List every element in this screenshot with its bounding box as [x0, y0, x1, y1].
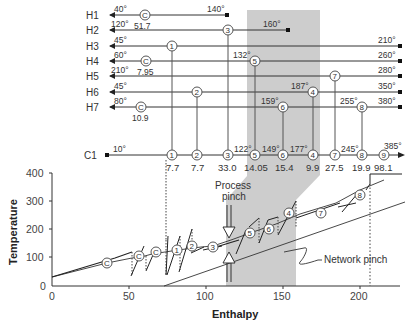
h5-target-temp: 210°	[111, 65, 129, 75]
network-pinch-label: Network pinch	[324, 254, 387, 265]
h7-supply-temp: 380°	[378, 96, 396, 106]
h6-supply-temp: 350°	[378, 81, 396, 91]
ex4-hot-temp: 187°	[291, 81, 309, 91]
svg-text:7: 7	[319, 209, 324, 218]
svg-text:6: 6	[267, 225, 272, 234]
chart-exchanger-5: 5	[245, 228, 255, 238]
h4-supply-temp: 260°	[378, 50, 396, 60]
svg-text:4: 4	[311, 88, 316, 97]
stream-label-h1: H1	[86, 10, 99, 21]
svg-text:2: 2	[195, 151, 200, 160]
exchanger-2-hot: 2	[192, 87, 202, 97]
svg-text:5: 5	[253, 151, 258, 160]
te-chart: 400 300 200 100 0 0 50 100 150 200 Entha…	[7, 160, 405, 320]
chart-exchanger-7: 7	[316, 208, 326, 218]
h4-target-temp: 60°	[114, 50, 127, 60]
process-pinch-label-line2: pinch	[222, 191, 246, 202]
ex8-duty: 19.9	[352, 162, 371, 173]
svg-text:7: 7	[333, 151, 338, 160]
cooler-h7: C 10.9	[132, 102, 149, 123]
exchanger-3-hot: 3	[223, 25, 233, 35]
exchanger-3-cold: 3	[223, 150, 233, 160]
svg-text:3: 3	[226, 26, 231, 35]
h2-target-temp: 120°	[111, 19, 129, 29]
exchanger-8-hot: 8	[357, 102, 367, 112]
exchanger-1-cold: 1	[167, 150, 177, 160]
x-tick-50: 50	[123, 290, 135, 302]
stream-label-h4: H4	[86, 56, 99, 67]
svg-text:1: 1	[170, 151, 175, 160]
svg-text:3: 3	[211, 243, 216, 252]
h3-target-temp: 45°	[114, 35, 127, 45]
svg-text:3: 3	[226, 151, 231, 160]
svg-text:5: 5	[248, 229, 253, 238]
chart-exchanger-3: 3	[208, 242, 218, 252]
ex7-duty: 27.5	[325, 162, 344, 173]
svg-text:4: 4	[287, 209, 292, 218]
svg-text:C: C	[104, 259, 110, 268]
svg-text:2: 2	[190, 242, 195, 251]
c1-supply-temp: 10°	[113, 144, 126, 154]
chart-exchanger-6: 6	[264, 224, 274, 234]
svg-text:C: C	[153, 248, 159, 257]
ex3-cold-out: 122°	[234, 144, 252, 154]
y-axis-title: Temperature	[7, 199, 19, 265]
svg-text:C: C	[138, 103, 144, 112]
stream-grid: H1 H2 H3 H4 H5 H6 H7 C1 40° 120° 45° 60°…	[84, 4, 405, 173]
y-tick-300: 300	[26, 195, 44, 207]
svg-text:C: C	[136, 252, 142, 261]
chart-cooler-1: C	[102, 258, 112, 268]
y-tick-100: 100	[26, 251, 44, 263]
cooler-h4-duty: 7.95	[137, 67, 154, 77]
svg-text:1: 1	[170, 42, 175, 51]
exchanger-4-hot: 4	[308, 87, 318, 97]
svg-text:2: 2	[195, 88, 200, 97]
ex8-hot-temp: 255°	[340, 96, 358, 106]
y-tick-200: 200	[26, 223, 44, 235]
x-tick-100: 100	[196, 290, 214, 302]
ex7-cold-out: 245°	[341, 144, 359, 154]
ex6-hot-temp: 159°	[261, 96, 279, 106]
svg-text:C: C	[143, 57, 149, 66]
heater-9: 9	[379, 150, 389, 160]
svg-text:8: 8	[360, 103, 365, 112]
ex5-cold-out: 149°	[262, 144, 280, 154]
exchanger-5-hot: 5	[250, 56, 260, 66]
cooler-h1-duty: 51.7	[134, 21, 151, 31]
process-pinch-label-line1: Process	[215, 180, 251, 191]
h5-supply-temp: 280°	[378, 65, 396, 75]
heat-exchanger-network-figure: H1 H2 H3 H4 H5 H6 H7 C1 40° 120° 45° 60°…	[0, 0, 416, 326]
h1-supply-temp: 140°	[207, 4, 225, 14]
ex9-duty: 98.1	[374, 162, 393, 173]
svg-text:6: 6	[281, 103, 286, 112]
exchanger-6-hot: 6	[278, 102, 288, 112]
svg-text:C: C	[142, 11, 148, 20]
ex1-duty: 7.7	[166, 162, 179, 173]
ex6-duty: 15.4	[275, 162, 294, 173]
ex3-duty: 33.0	[218, 162, 237, 173]
ex6-cold-out: 177°	[290, 144, 308, 154]
h7-target-temp: 80°	[114, 96, 127, 106]
svg-text:6: 6	[281, 151, 286, 160]
svg-text:8: 8	[360, 151, 365, 160]
exchanger-1-hot: 1	[167, 41, 177, 51]
x-tick-0: 0	[49, 290, 55, 302]
chart-exchanger-2: 2	[187, 241, 197, 251]
stream-label-c1: C1	[84, 150, 97, 161]
svg-text:7: 7	[333, 72, 338, 81]
x-axis-title: Enthalpy	[212, 308, 259, 320]
ex2-duty: 7.7	[191, 162, 204, 173]
h6-target-temp: 45°	[114, 81, 127, 91]
svg-text:8: 8	[358, 191, 363, 200]
chart-exchanger-8: 8	[355, 190, 365, 200]
exchanger-4-cold: 4	[308, 150, 318, 160]
cooler-h1: C 51.7	[134, 10, 151, 31]
svg-text:1: 1	[175, 246, 180, 255]
x-tick-150: 150	[273, 290, 291, 302]
svg-text:4: 4	[311, 151, 316, 160]
chart-exchanger-1: 1	[172, 245, 182, 255]
h3-supply-temp: 210°	[378, 35, 396, 45]
h2-supply-temp: 160°	[263, 19, 281, 29]
ex5-duty: 14.05	[244, 162, 268, 173]
svg-text:9: 9	[382, 151, 387, 160]
